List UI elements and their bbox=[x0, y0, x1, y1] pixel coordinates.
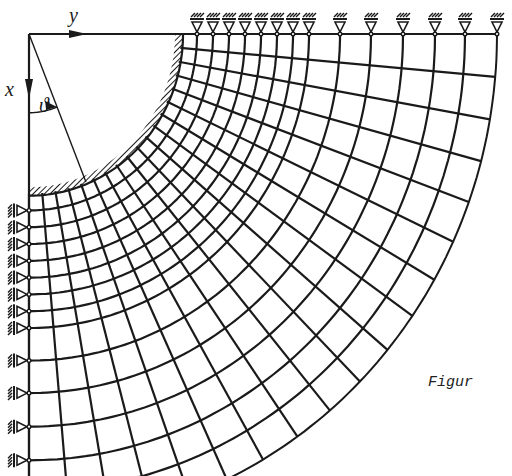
angle-reference-line bbox=[29, 34, 86, 182]
pinned-support-icon bbox=[8, 420, 31, 434]
pinned-support-icon bbox=[8, 271, 31, 285]
pinned-support-icon bbox=[222, 13, 236, 36]
coordinate-axes: yxϑ bbox=[4, 4, 87, 182]
mesh-spoke bbox=[55, 191, 110, 476]
pinned-support-icon bbox=[8, 386, 31, 400]
angle-label: ϑ bbox=[39, 94, 50, 116]
pinned-support-icon bbox=[333, 13, 347, 36]
figure-caption: Figur (Disc varia and bbox=[428, 338, 473, 476]
x-axis-label: x bbox=[4, 78, 14, 100]
pinned-support-icon bbox=[8, 254, 31, 268]
pinned-support-icon bbox=[270, 13, 284, 36]
pinned-support-icon bbox=[458, 13, 472, 36]
pinned-support-icon bbox=[428, 13, 442, 36]
mesh-ring bbox=[29, 34, 465, 476]
x-axis-arrow-icon bbox=[25, 79, 33, 99]
pinned-support-icon bbox=[238, 13, 252, 36]
mesh-spoke bbox=[167, 101, 453, 241]
pinned-support-icon bbox=[206, 13, 220, 36]
pinned-support-icon bbox=[254, 13, 268, 36]
pinned-support-icon bbox=[364, 13, 378, 36]
pinned-support-icon bbox=[8, 453, 31, 467]
pinned-support-icon bbox=[302, 13, 316, 36]
mesh-spoke bbox=[116, 165, 297, 437]
mesh-spoke bbox=[179, 62, 490, 120]
pinned-support-icon bbox=[8, 304, 31, 318]
pinned-support-icon bbox=[396, 13, 410, 36]
caption-line: Figur bbox=[428, 374, 473, 392]
mesh-spoke bbox=[136, 147, 359, 382]
mesh-spoke bbox=[42, 193, 70, 476]
pinned-support-icon bbox=[8, 321, 31, 335]
y-axis-arrow-icon bbox=[69, 30, 87, 38]
polar-mesh bbox=[29, 34, 497, 476]
pinned-support-icon bbox=[8, 287, 31, 301]
pinned-support-icon bbox=[490, 13, 504, 36]
mesh-spoke bbox=[154, 126, 413, 316]
pinned-support-icon bbox=[286, 13, 300, 36]
y-axis-label: y bbox=[67, 4, 78, 27]
pinned-support-icon bbox=[8, 354, 31, 368]
pinned-support-icon bbox=[8, 237, 31, 251]
pinned-support-icon bbox=[190, 13, 204, 36]
mesh-spoke bbox=[93, 179, 227, 476]
caption-line bbox=[428, 428, 473, 446]
pinned-support-icon bbox=[8, 203, 31, 217]
pinned-support-icon bbox=[8, 220, 31, 234]
